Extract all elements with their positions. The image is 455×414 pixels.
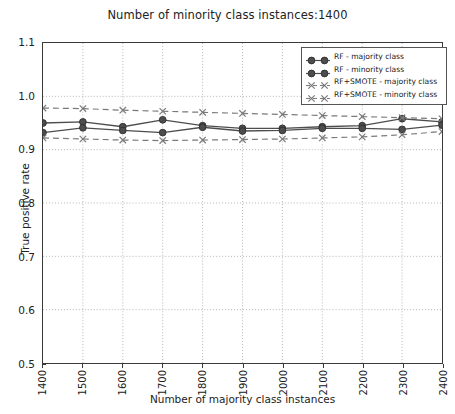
- data-point-marker: [439, 128, 442, 134]
- data-point-marker: [319, 125, 326, 132]
- legend-marker-circle-icon: [305, 51, 331, 62]
- legend-label: RF+SMOTE - minority class: [334, 89, 437, 100]
- data-point-marker: [439, 122, 442, 129]
- data-point-marker: [119, 127, 126, 134]
- data-point-marker: [159, 116, 166, 123]
- data-point-marker: [43, 120, 46, 127]
- y-axis-tick-label: 1.0: [0, 90, 35, 102]
- legend-marker-x-icon: [305, 89, 331, 100]
- x-axis-tick-label: 2300: [398, 370, 409, 395]
- data-point-marker: [239, 128, 246, 135]
- x-axis-tick-mark: [42, 364, 43, 368]
- legend-item-2: RF+SMOTE - majority class: [305, 76, 443, 88]
- x-axis-tick-label: 1700: [157, 370, 168, 395]
- data-point-marker: [159, 129, 166, 136]
- x-axis-tick-label: 2000: [278, 370, 289, 395]
- x-axis-tick-label: 2100: [318, 370, 329, 395]
- legend-label: RF - majority class: [334, 51, 404, 62]
- x-axis-label: Number of majority class instances: [42, 393, 443, 405]
- legend-item-0: RF - majority class: [305, 51, 443, 63]
- data-point-marker: [399, 115, 406, 122]
- x-axis-tick-mark: [403, 364, 404, 368]
- y-axis-tick-label: 0.5: [0, 358, 35, 370]
- x-axis-tick-label: 1800: [197, 370, 208, 395]
- x-axis-tick-label: 2200: [358, 370, 369, 395]
- x-axis-tick-mark: [202, 364, 203, 368]
- legend-marker-x-icon: [305, 76, 331, 87]
- y-axis-tick-label: 0.8: [0, 197, 35, 209]
- chart-figure: Number of minority class instances:1400 …: [0, 0, 455, 414]
- x-axis-tick-mark: [323, 364, 324, 368]
- legend-label: RF+SMOTE - majority class: [334, 76, 437, 87]
- legend-item-1: RF - minority class: [305, 63, 443, 75]
- x-axis-tick-mark: [122, 364, 123, 368]
- y-axis-tick-label: 0.6: [0, 304, 35, 316]
- series-2: [43, 105, 442, 122]
- legend-label: RF - minority class: [334, 64, 404, 75]
- x-axis-tick-mark: [443, 364, 444, 368]
- data-point-marker: [199, 124, 206, 131]
- data-point-marker: [359, 125, 366, 132]
- legend-item-3: RF+SMOTE - minority class: [305, 88, 443, 100]
- x-axis-tick-label: 1600: [117, 370, 128, 395]
- y-axis-tick-label: 0.7: [0, 251, 35, 263]
- x-axis-tick-mark: [283, 364, 284, 368]
- chart-title: Number of minority class instances:1400: [0, 8, 455, 22]
- legend-marker-circle-icon: [305, 64, 331, 75]
- data-point-marker: [279, 127, 286, 134]
- chart-legend: RF - majority classRF - minority classRF…: [301, 47, 447, 105]
- x-axis-tick-label: 1400: [37, 370, 48, 395]
- x-axis-tick-mark: [82, 364, 83, 368]
- y-axis-tick-label: 0.9: [0, 143, 35, 155]
- x-axis-tick-label: 2400: [438, 370, 449, 395]
- x-axis-tick-label: 1500: [77, 370, 88, 395]
- x-axis-tick-mark: [162, 364, 163, 368]
- y-axis-tick-label: 1.1: [0, 36, 35, 48]
- x-axis-tick-mark: [243, 364, 244, 368]
- x-axis-tick-mark: [363, 364, 364, 368]
- data-point-marker: [80, 124, 87, 131]
- x-axis-tick-label: 1900: [238, 370, 249, 395]
